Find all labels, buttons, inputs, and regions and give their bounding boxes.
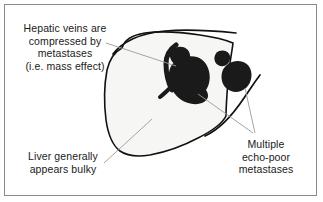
label-hepatic-veins-line-3: metastases [12, 47, 118, 60]
label-liver-bulky-line-1: Liver generally [10, 150, 116, 163]
label-hepatic-veins-line-1: Hepatic veins are [12, 22, 118, 35]
figure-container: Hepatic veins are compressed by metastas… [0, 0, 323, 202]
label-metastases-line-2: echo-poor [228, 151, 304, 164]
label-metastases-line-1: Multiple [228, 138, 304, 151]
label-metastases: Multiple echo-poor metastases [228, 138, 304, 176]
label-hepatic-veins-line-4: (i.e. mass effect) [12, 60, 118, 73]
label-hepatic-veins: Hepatic veins are compressed by metastas… [12, 22, 118, 72]
label-liver-bulky-line-2: appears bulky [10, 163, 116, 176]
label-metastases-line-3: metastases [228, 163, 304, 176]
leader-line-metastasis-right [245, 88, 255, 133]
label-hepatic-veins-line-2: compressed by [12, 35, 118, 48]
label-liver-bulky: Liver generally appears bulky [10, 150, 116, 175]
